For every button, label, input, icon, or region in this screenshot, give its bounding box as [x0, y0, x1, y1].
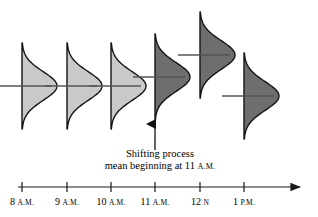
tick-label-hour: 9: [55, 196, 63, 207]
tick-label-meridiem: A.M.: [153, 198, 170, 207]
axis-tick-label: 12 N: [191, 196, 209, 207]
tick-label-hour: 12: [191, 196, 204, 207]
caption-line-2: mean beginning at 11 A.M.: [50, 160, 270, 173]
figure-caption: Shifting process mean beginning at 11 A.…: [50, 148, 270, 173]
tick-label-meridiem: A.M.: [109, 198, 126, 207]
distribution-chart-svg: [0, 0, 318, 217]
axis-tick-label: 11 A.M.: [141, 196, 170, 207]
axis-tick-label: 9 A.M.: [55, 196, 79, 207]
tick-label-hour: 1: [233, 196, 241, 207]
caption-line-2-text: mean beginning at 11: [105, 160, 195, 171]
distribution-curve-group: [22, 12, 279, 139]
time-axis: [18, 182, 300, 192]
tick-label-meridiem: P.M.: [240, 198, 255, 207]
tick-label-meridiem: N: [203, 198, 209, 207]
caption-line-2-meridiem: A.M.: [198, 162, 216, 171]
shifting-process-figure: Shifting process mean beginning at 11 A.…: [0, 0, 318, 217]
tick-label-hour: 8: [10, 196, 18, 207]
axis-tick-label: 1 P.M.: [233, 196, 255, 207]
axis-tick-label: 10 A.M.: [96, 196, 125, 207]
axis-tick-label: 8 A.M.: [10, 196, 34, 207]
tick-label-meridiem: A.M.: [62, 198, 79, 207]
tick-label-hour: 10: [96, 196, 109, 207]
tick-label-meridiem: A.M.: [17, 198, 34, 207]
tick-label-hour: 11: [141, 196, 153, 207]
caption-line-1: Shifting process: [50, 148, 270, 160]
